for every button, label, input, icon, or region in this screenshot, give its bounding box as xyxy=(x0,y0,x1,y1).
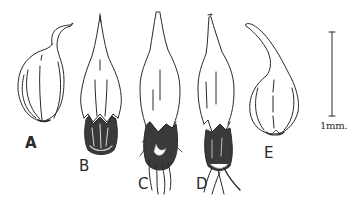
panel-label-b: B xyxy=(79,159,89,174)
panel-label-c: C xyxy=(138,177,148,192)
panel-label-d: D xyxy=(196,177,208,192)
panel-d-drawing xyxy=(198,14,240,194)
panel-e-drawing xyxy=(246,23,299,135)
panel-a-drawing xyxy=(18,23,73,122)
scale-bar-label: 1mm. xyxy=(320,120,347,131)
figure-canvas: A B C D E 1mm. xyxy=(0,0,361,207)
panel-b-drawing xyxy=(81,14,122,155)
panel-c-drawing xyxy=(140,12,182,194)
panel-label-e: E xyxy=(264,146,273,161)
panel-label-a: A xyxy=(25,136,37,151)
scale-bar xyxy=(329,32,335,116)
